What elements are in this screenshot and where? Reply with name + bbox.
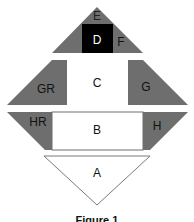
label-g: G bbox=[141, 80, 150, 94]
region-a bbox=[44, 156, 150, 205]
label-f: F bbox=[117, 35, 124, 49]
label-d: D bbox=[93, 33, 102, 47]
third-tier-trapezoid: HR B H bbox=[7, 112, 188, 150]
second-tier-trapezoid: GR C G bbox=[7, 60, 188, 105]
top-triangle: E D F bbox=[52, 7, 143, 53]
figure-caption: Figure 1 bbox=[76, 214, 119, 222]
figure-diagram: E D F GR C G HR B H A Figure 1 bbox=[0, 0, 194, 222]
bottom-triangle: A bbox=[44, 156, 150, 205]
label-a: A bbox=[93, 166, 101, 180]
label-h: H bbox=[153, 119, 162, 133]
label-gr: GR bbox=[37, 82, 55, 96]
label-c: C bbox=[93, 76, 102, 90]
label-b: B bbox=[93, 123, 101, 137]
label-hr: HR bbox=[29, 115, 47, 129]
label-e: E bbox=[93, 9, 101, 23]
